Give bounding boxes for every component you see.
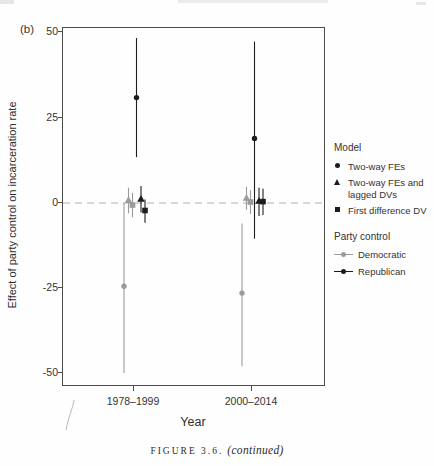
caption-continued: (continued) (227, 444, 283, 456)
legend-item-label: First difference DV (348, 205, 434, 217)
plot-panel (62, 27, 325, 386)
legend-item-label: Republican (358, 266, 434, 278)
estimate-square-republican (142, 208, 148, 214)
circle-marker-icon (334, 161, 348, 168)
legend-item-two-way-fes: Two-way FEs (334, 161, 434, 173)
legend-item-first-difference: First difference DV (334, 205, 434, 217)
y-tick-label-25: 25 (30, 111, 58, 123)
estimate-square-democratic (130, 202, 136, 208)
legend-item-democratic: Democratic (334, 249, 434, 261)
estimate-square-republican (260, 199, 266, 205)
y-tick-label-50: 50 (30, 25, 58, 37)
legend-item-republican: Republican (334, 266, 434, 278)
republican-key-icon (334, 266, 358, 277)
x-tick-label-2000-2014: 2000–2014 (211, 395, 291, 407)
x-tick-mark (133, 386, 134, 391)
legend-party-title: Party control (334, 231, 434, 243)
estimate-triangle-democratic (125, 196, 133, 203)
caption-figure-number: FIGURE 3.6. (150, 446, 223, 456)
square-marker-icon (334, 205, 348, 212)
y-tick-label-0: 0 (30, 196, 58, 208)
legend-item-label: Two-way FEs and lagged DVs (348, 177, 434, 200)
coefficient-plot (63, 28, 324, 385)
y-tick-label-n25: -25 (30, 281, 58, 293)
x-tick-label-1978-1999: 1978–1999 (93, 395, 173, 407)
figure-page: (b) 50 25 0 -25 -50 Effect of party cont… (0, 0, 434, 466)
estimate-circle-republican (134, 95, 139, 100)
triangle-marker-icon (334, 177, 348, 185)
scan-smudge-top-center (178, 0, 328, 3)
democratic-key-icon (334, 249, 358, 260)
estimate-circle-democratic (121, 284, 126, 289)
x-axis-title: Year (143, 415, 243, 429)
legend-item-label: Two-way FEs (348, 161, 434, 173)
figure-caption: FIGURE 3.6. (continued) (0, 440, 434, 458)
estimate-triangle-republican (137, 195, 145, 202)
legend-item-lagged-dvs: Two-way FEs and lagged DVs (334, 177, 434, 200)
estimate-circle-republican (252, 136, 257, 141)
scan-smudge-top-left (0, 0, 14, 4)
x-tick-mark (251, 386, 252, 391)
legend-model-title: Model (334, 142, 434, 154)
legend-item-label: Democratic (358, 249, 434, 261)
legend: Model Two-way FEs Two-way FEs and lagged… (334, 142, 434, 282)
estimate-circle-democratic (239, 290, 244, 295)
y-axis-title: Effect of party control on incarceration… (6, 25, 18, 385)
y-tick-label-n50: -50 (30, 366, 58, 378)
scan-smudge-top-right (416, 2, 426, 5)
estimate-square-democratic (248, 199, 254, 205)
scan-mark-artifact (60, 398, 84, 434)
